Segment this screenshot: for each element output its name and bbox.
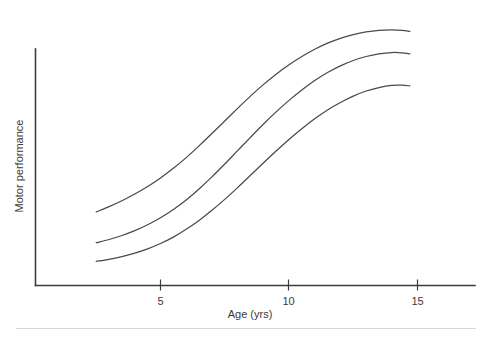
- chart-background: [0, 0, 492, 340]
- x-tick-label-15: 15: [411, 295, 423, 307]
- motor-performance-line-chart: 5 10 15 Age (yrs) Motor performance: [0, 0, 492, 340]
- y-axis-title: Motor performance: [13, 120, 25, 213]
- x-tick-label-10: 10: [282, 295, 294, 307]
- x-tick-label-5: 5: [157, 295, 163, 307]
- chart-figure: 5 10 15 Age (yrs) Motor performance: [0, 0, 492, 340]
- x-axis-title: Age (yrs): [228, 308, 273, 320]
